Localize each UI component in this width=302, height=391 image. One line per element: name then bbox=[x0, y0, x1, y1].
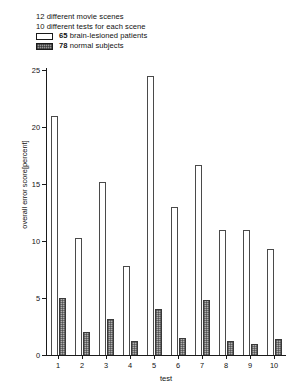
x-axis-tick-label: 7 bbox=[192, 361, 212, 370]
bar-patients-test-9 bbox=[243, 230, 250, 355]
y-axis-tick bbox=[42, 127, 47, 128]
x-axis-tick bbox=[106, 355, 107, 359]
bar-chart: 0510152025 12345678910 overall error sco… bbox=[0, 0, 302, 391]
y-axis-tick bbox=[42, 241, 47, 242]
bar-normals-test-2 bbox=[83, 332, 90, 355]
bar-normals-test-8 bbox=[227, 341, 234, 355]
x-axis-tick-label: 8 bbox=[216, 361, 236, 370]
x-axis-tick-label: 2 bbox=[72, 361, 92, 370]
x-axis-title: test bbox=[46, 374, 286, 383]
x-axis-tick-label: 4 bbox=[120, 361, 140, 370]
x-axis-tick bbox=[82, 355, 83, 359]
bar-normals-test-3 bbox=[107, 319, 114, 355]
bar-normals-test-4 bbox=[131, 341, 138, 355]
x-axis-tick-label: 1 bbox=[48, 361, 68, 370]
y-axis-tick bbox=[42, 355, 47, 356]
y-axis-tick-label: 5 bbox=[20, 294, 40, 303]
bar-patients-test-4 bbox=[123, 266, 130, 355]
y-axis-line bbox=[46, 68, 47, 356]
x-axis-tick bbox=[226, 355, 227, 359]
y-axis-tick bbox=[42, 70, 47, 71]
x-axis-tick bbox=[154, 355, 155, 359]
bar-normals-test-9 bbox=[251, 344, 258, 355]
x-axis-tick-label: 3 bbox=[96, 361, 116, 370]
bar-normals-test-7 bbox=[203, 300, 210, 355]
y-axis-title: overall error score[percent] bbox=[20, 115, 29, 255]
bar-normals-test-10 bbox=[275, 339, 282, 355]
x-axis-tick bbox=[178, 355, 179, 359]
bar-patients-test-1 bbox=[51, 116, 58, 355]
bar-patients-test-7 bbox=[195, 165, 202, 355]
bar-normals-test-5 bbox=[155, 309, 162, 355]
x-axis-tick-label: 10 bbox=[264, 361, 284, 370]
x-axis-tick bbox=[130, 355, 131, 359]
x-axis-tick-label: 9 bbox=[240, 361, 260, 370]
bar-patients-test-2 bbox=[75, 238, 82, 355]
bar-patients-test-8 bbox=[219, 230, 226, 355]
bar-patients-test-6 bbox=[171, 207, 178, 355]
x-axis-tick bbox=[58, 355, 59, 359]
bar-patients-test-3 bbox=[99, 182, 106, 355]
x-axis-tick-label: 6 bbox=[168, 361, 188, 370]
bar-normals-test-1 bbox=[59, 298, 66, 355]
y-axis-tick bbox=[42, 184, 47, 185]
x-axis-tick bbox=[274, 355, 275, 359]
x-axis-tick bbox=[250, 355, 251, 359]
bar-patients-test-10 bbox=[267, 249, 274, 355]
bar-normals-test-6 bbox=[179, 338, 186, 355]
y-axis-tick-label: 25 bbox=[20, 66, 40, 75]
y-axis-tick-label: 0 bbox=[20, 351, 40, 360]
bar-patients-test-5 bbox=[147, 76, 154, 355]
y-axis-tick bbox=[42, 298, 47, 299]
x-axis-tick-label: 5 bbox=[144, 361, 164, 370]
x-axis-tick bbox=[202, 355, 203, 359]
